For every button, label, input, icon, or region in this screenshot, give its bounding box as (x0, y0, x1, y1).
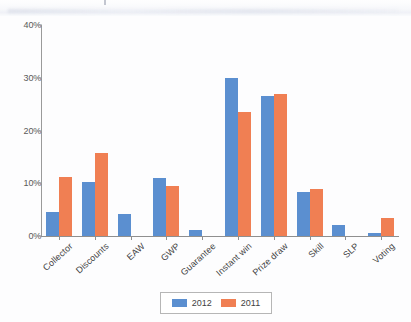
legend-label-2012: 2012 (192, 298, 212, 308)
x-tick-label: GWP (159, 241, 182, 263)
bar-2011[interactable] (238, 112, 251, 236)
bar-2012[interactable] (225, 78, 238, 236)
bar-2012[interactable] (189, 230, 202, 236)
bar-2011[interactable] (59, 177, 72, 236)
bar-group (118, 25, 144, 236)
bar-2012[interactable] (153, 178, 166, 236)
x-tick-mark (310, 236, 311, 240)
bar-2011[interactable] (274, 94, 287, 236)
bar-2012[interactable] (46, 212, 59, 236)
x-tick-label: Discounts (74, 241, 111, 275)
x-tick-label: Collector (41, 241, 75, 273)
bar-2012[interactable] (118, 214, 131, 236)
bar-group (297, 25, 323, 236)
scan-artifact-tick (104, 0, 106, 5)
bar-2011[interactable] (95, 153, 108, 236)
legend-swatch-2011 (221, 299, 236, 307)
bar-2012[interactable] (82, 182, 95, 236)
x-tick-label: EAW (124, 241, 146, 262)
chart-legend: 2012 2011 (160, 292, 272, 314)
bar-chart-figure: 0%10%20%30%40% CollectorDiscountsEAWGWPG… (0, 0, 411, 322)
legend-label-2011: 2011 (241, 298, 260, 308)
x-tick-mark (274, 236, 275, 240)
x-tick-label: SLP (341, 241, 361, 260)
x-tick-label: Skill (306, 241, 325, 260)
bar-group (368, 25, 394, 236)
x-tick-mark (131, 236, 132, 240)
bar-2011[interactable] (310, 189, 323, 236)
bar-2011[interactable] (381, 218, 394, 236)
x-tick-mark (238, 236, 239, 240)
x-tick-label: Instant win (214, 241, 253, 278)
legend-entry-2012[interactable]: 2012 (172, 298, 212, 308)
bar-2012[interactable] (332, 225, 345, 236)
bar-2012[interactable] (261, 96, 274, 236)
bar-group (46, 25, 72, 236)
bar-group (261, 25, 287, 236)
x-tick-label: Prize draw (250, 241, 289, 278)
x-tick-mark (202, 236, 203, 240)
x-tick-mark (166, 236, 167, 240)
bar-group (153, 25, 179, 236)
bar-group (82, 25, 108, 236)
bar-2011[interactable] (166, 186, 179, 236)
bar-group (332, 25, 358, 236)
scan-artifact-strip (0, 0, 411, 16)
x-tick-label: Guarantee (179, 241, 218, 277)
legend-entry-2011[interactable]: 2011 (221, 298, 260, 308)
x-tick-mark (381, 236, 382, 240)
x-tick-mark (95, 236, 96, 240)
x-tick-mark (345, 236, 346, 240)
x-tick-label: Voting (371, 241, 397, 266)
bar-2012[interactable] (368, 233, 381, 236)
legend-swatch-2012 (172, 299, 187, 307)
bar-group (189, 25, 215, 236)
bar-2012[interactable] (297, 192, 310, 236)
plot-area (41, 25, 399, 236)
bar-group (225, 25, 251, 236)
x-tick-mark (59, 236, 60, 240)
